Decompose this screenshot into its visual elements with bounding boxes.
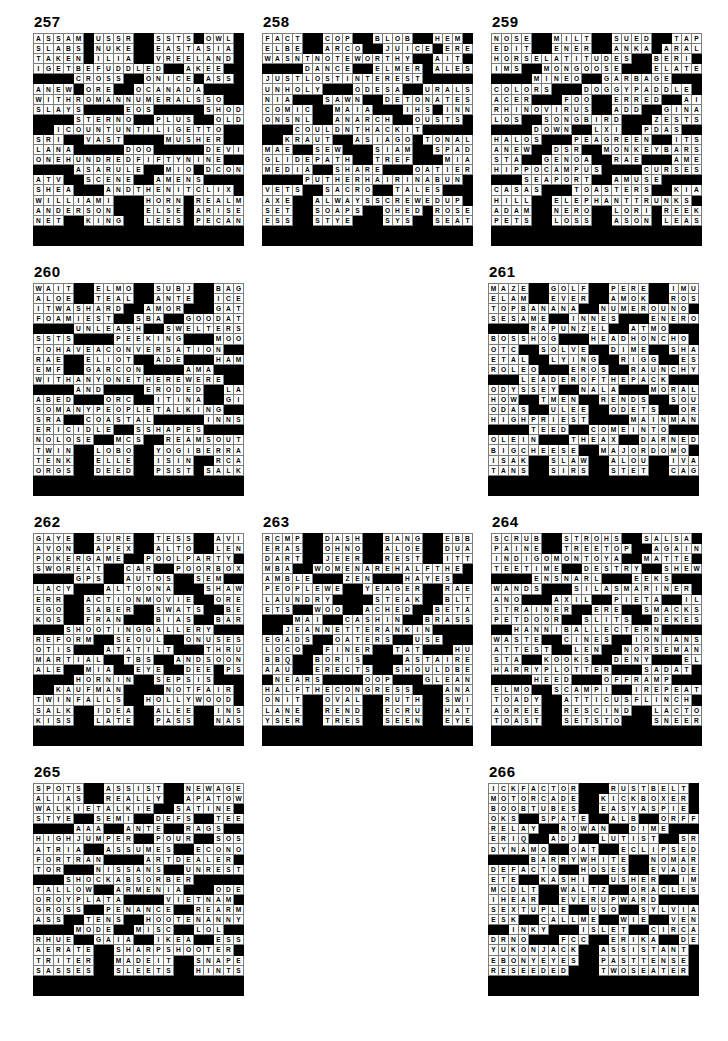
grid-cell-letter: M bbox=[629, 344, 639, 354]
grid-cell-block bbox=[509, 975, 519, 985]
grid-cell-block bbox=[592, 735, 602, 745]
grid-row: ETALLYINGRIGGES bbox=[489, 354, 699, 364]
grid-cell-letter: D bbox=[689, 435, 699, 445]
grid-row: SEXTUPLEUSOSYLVIA bbox=[489, 905, 699, 915]
grid-cell-letter: I bbox=[54, 283, 64, 293]
grid-cell-block bbox=[34, 624, 44, 634]
puzzle-259: 259NOSEMILTSUEDTAPEDITENERANKAARALHORSEL… bbox=[491, 14, 702, 246]
grid-cell-letter: E bbox=[552, 675, 562, 685]
grid-cell-block bbox=[134, 554, 144, 564]
grid-cell-letter: S bbox=[622, 54, 632, 64]
grid-cell-block bbox=[64, 114, 74, 124]
grid-cell-block bbox=[134, 44, 144, 54]
grid-cell-letter: A bbox=[44, 354, 54, 364]
grid-cell-letter: L bbox=[194, 54, 204, 64]
grid-cell-block bbox=[443, 225, 453, 235]
grid-cell-letter: G bbox=[224, 395, 234, 405]
grid-cell-letter: A bbox=[303, 614, 313, 624]
grid-cell-letter: E bbox=[639, 915, 649, 925]
grid-cell-letter: N bbox=[353, 94, 363, 104]
grid-cell-block bbox=[413, 84, 423, 94]
grid-cell-letter: I bbox=[214, 705, 224, 715]
grid-cell-letter: A bbox=[104, 715, 114, 725]
grid-cell-letter: T bbox=[542, 644, 552, 654]
grid-cell-block bbox=[74, 665, 84, 675]
grid-cell-letter: A bbox=[104, 844, 114, 854]
grid-cell-letter: N bbox=[74, 54, 84, 64]
grid-cell-letter: R bbox=[373, 54, 383, 64]
grid-cell-letter: N bbox=[619, 395, 629, 405]
grid-cell-letter: D bbox=[549, 374, 559, 384]
grid-cell-letter: S bbox=[154, 604, 164, 614]
grid-cell-block bbox=[522, 235, 532, 245]
grid-cell-letter: N bbox=[599, 304, 609, 314]
grid-cell-letter: Q bbox=[519, 834, 529, 844]
grid-cell-letter: C bbox=[94, 594, 104, 604]
grid-cell-letter: T bbox=[413, 554, 423, 564]
grid-row: TOASTSETSTOSNEER bbox=[492, 715, 702, 725]
grid-cell-letter: T bbox=[84, 114, 94, 124]
grid-cell-block bbox=[144, 435, 154, 445]
grid-cell-letter: S bbox=[622, 614, 632, 624]
grid-cell-letter: I bbox=[502, 165, 512, 175]
grid-cell-letter: S bbox=[363, 195, 373, 205]
grid-cell-block bbox=[84, 864, 94, 874]
grid-cell-letter: N bbox=[224, 915, 234, 925]
grid-cell-letter: C bbox=[124, 395, 134, 405]
grid-cell-letter: T bbox=[174, 544, 184, 554]
grid-cell-letter: R bbox=[572, 175, 582, 185]
grid-cell-letter: D bbox=[234, 114, 244, 124]
grid-row bbox=[34, 735, 244, 745]
grid-cell-block bbox=[529, 395, 539, 405]
grid-cell-letter: S bbox=[692, 145, 702, 155]
grid-cell-block bbox=[612, 665, 622, 675]
grid-cell-block bbox=[44, 114, 54, 124]
grid-cell-letter: K bbox=[144, 334, 154, 344]
grid-cell-letter: S bbox=[234, 705, 244, 715]
grid-cell-block bbox=[652, 655, 662, 665]
grid-cell-letter: E bbox=[34, 604, 44, 614]
grid-cell-letter: H bbox=[669, 334, 679, 344]
grid-cell-letter: H bbox=[512, 624, 522, 634]
grid-cell-block bbox=[134, 975, 144, 985]
grid-cell-letter: E bbox=[273, 185, 283, 195]
grid-cell-block bbox=[114, 425, 124, 435]
grid-cell-letter: T bbox=[34, 955, 44, 965]
grid-cell-block bbox=[589, 783, 599, 793]
grid-row: RESEEDEDTWOSEATER bbox=[489, 965, 699, 975]
grid-cell-letter: I bbox=[94, 705, 104, 715]
grid-cell-block bbox=[194, 544, 204, 554]
grid-cell-letter: A bbox=[204, 364, 214, 374]
grid-cell-letter: N bbox=[104, 205, 114, 215]
grid-cell-block bbox=[84, 185, 94, 195]
grid-cell-letter: A bbox=[34, 794, 44, 804]
grid-cell-block bbox=[204, 544, 214, 554]
grid-cell-letter: O bbox=[214, 655, 224, 665]
grid-cell-block bbox=[234, 874, 244, 884]
grid-cell-block bbox=[184, 235, 194, 245]
grid-cell-letter: R bbox=[224, 644, 234, 654]
grid-cell-letter: E bbox=[659, 783, 669, 793]
grid-cell-block bbox=[692, 84, 702, 94]
grid-cell-letter: I bbox=[489, 894, 499, 904]
grid-cell-letter: L bbox=[499, 435, 509, 445]
grid-cell-letter: R bbox=[433, 205, 443, 215]
grid-cell-block bbox=[562, 735, 572, 745]
grid-cell-block bbox=[592, 145, 602, 155]
grid-cell-letter: N bbox=[124, 624, 134, 634]
grid-cell-letter: E bbox=[373, 584, 383, 594]
grid-cell-block bbox=[224, 485, 234, 495]
grid-cell-letter: P bbox=[542, 665, 552, 675]
grid-cell-letter: D bbox=[303, 64, 313, 74]
grid-cell-block bbox=[672, 74, 682, 84]
grid-cell-block bbox=[632, 114, 642, 124]
grid-cell-letter: S bbox=[669, 395, 679, 405]
grid-cell-letter: L bbox=[44, 794, 54, 804]
grid-cell-block bbox=[144, 614, 154, 624]
grid-cell-letter: M bbox=[114, 283, 124, 293]
grid-cell-letter: O bbox=[499, 804, 509, 814]
grid-cell-letter: S bbox=[224, 935, 234, 945]
grid-cell-letter: R bbox=[224, 854, 234, 864]
grid-cell-letter: E bbox=[569, 364, 579, 374]
grid-cell-letter: A bbox=[273, 665, 283, 675]
